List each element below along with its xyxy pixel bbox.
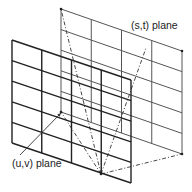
line — [20, 113, 61, 155]
uv-plane-label: (u,v) plane — [12, 157, 62, 169]
uv-plane-pointer-arrow — [20, 113, 61, 155]
st-plane-label: (s,t) plane — [131, 19, 178, 31]
vertex-dot — [60, 8, 63, 11]
line — [61, 112, 101, 174]
vertex-dot — [181, 153, 184, 156]
line — [61, 9, 101, 174]
vertex-dot — [60, 111, 63, 114]
diagram-canvas: (s,t) plane (u,v) plane — [0, 0, 192, 192]
vertex-dot — [181, 50, 184, 53]
